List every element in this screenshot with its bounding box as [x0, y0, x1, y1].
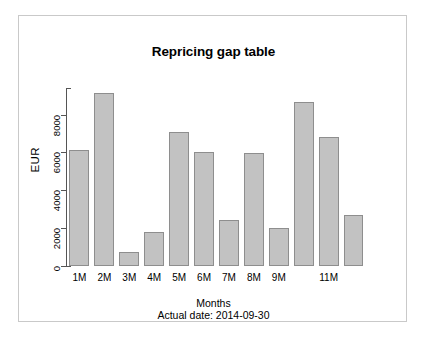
bar — [169, 132, 189, 266]
x-axis-tick-label: 11M — [311, 272, 347, 283]
chart-subtitle-actual-date: Actual date: 2014-09-30 — [19, 309, 408, 321]
bar — [319, 137, 339, 266]
bar — [344, 215, 364, 266]
x-axis-tick-label: 9M — [261, 272, 297, 283]
bar — [219, 220, 239, 266]
bar — [144, 232, 164, 266]
bar — [94, 93, 114, 266]
plot-area: 02000400060008000 EUR 1M2M3M4M5M6M7M8M9M… — [19, 16, 408, 323]
bar — [269, 228, 289, 266]
y-axis-cap-top — [66, 88, 71, 89]
screenshot-root: Repricing gap table 02000400060008000 EU… — [0, 0, 425, 350]
chart-frame: Repricing gap table 02000400060008000 EU… — [18, 15, 407, 322]
x-axis-title: Months — [19, 297, 408, 309]
bar — [294, 102, 314, 266]
bar — [244, 153, 264, 266]
bar — [119, 252, 139, 266]
bar — [69, 150, 89, 266]
y-axis-title: EUR — [29, 147, 41, 172]
bar — [194, 152, 214, 266]
